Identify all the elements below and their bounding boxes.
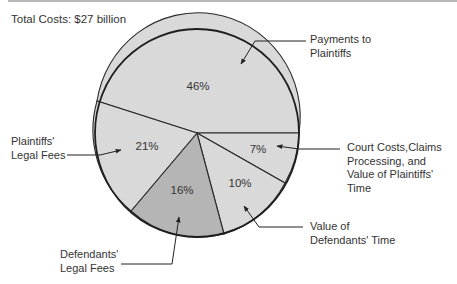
pct-court-costs: 7% bbox=[250, 143, 267, 155]
label-plaintiffs-legal-fees: Plaintiffs' Legal Fees bbox=[11, 135, 65, 162]
label-line: Processing, and bbox=[347, 155, 442, 169]
label-line: Time bbox=[347, 182, 442, 196]
label-line: Value of Plaintiffs' bbox=[347, 168, 442, 182]
label-payments-to-plaintiffs: Payments to Plaintiffs bbox=[310, 33, 371, 60]
label-line: Defendants' bbox=[60, 248, 118, 262]
label-line: Defendants' Time bbox=[310, 234, 395, 248]
pct-payments: 46% bbox=[186, 80, 209, 92]
label-court-costs: Court Costs,Claims Processing, and Value… bbox=[347, 141, 442, 195]
label-line: Legal Fees bbox=[11, 149, 65, 163]
label-defendants-time: Value of Defendants' Time bbox=[310, 220, 395, 247]
label-line: Legal Fees bbox=[60, 262, 118, 276]
label-defendants-legal-fees: Defendants' Legal Fees bbox=[60, 248, 118, 275]
label-line: Plaintiffs bbox=[310, 47, 371, 61]
label-line: Plaintiffs' bbox=[11, 135, 65, 149]
label-line: Court Costs,Claims bbox=[347, 141, 442, 155]
pct-defendants-fees: 16% bbox=[170, 184, 193, 196]
pct-defendants-time: 10% bbox=[228, 177, 251, 189]
pct-plaintiffs-fees: 21% bbox=[135, 140, 158, 152]
label-line: Value of bbox=[310, 220, 395, 234]
label-line: Payments to bbox=[310, 33, 371, 47]
